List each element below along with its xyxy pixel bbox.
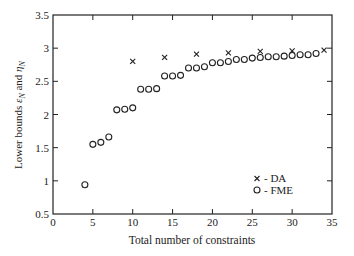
data-point (194, 52, 199, 57)
data-point (209, 60, 215, 66)
x-tick-label: 15 (167, 216, 179, 228)
x-tick-label: 20 (207, 216, 219, 228)
data-points (82, 48, 327, 188)
y-axis-label: Lower bounds εN and ηN (12, 60, 27, 169)
data-point (193, 65, 199, 71)
y-tick-label: 3.5 (35, 9, 49, 21)
data-point (106, 134, 112, 140)
x-tick-label: 10 (127, 216, 139, 228)
data-point (162, 55, 167, 60)
scatter-chart: 051015202530350.511.522.533.5 Total numb… (0, 0, 354, 256)
data-point (201, 64, 207, 70)
data-point (146, 86, 152, 92)
data-point (130, 105, 136, 111)
data-point (273, 54, 279, 60)
data-point (154, 86, 160, 92)
data-point (162, 73, 168, 79)
data-point (265, 54, 271, 60)
data-point (225, 58, 231, 64)
data-point (122, 106, 128, 112)
legend: - DA - FME (254, 172, 293, 196)
data-point (98, 139, 104, 145)
x-axis-label: Total number of constraints (129, 234, 256, 246)
legend-label-da: - DA (264, 172, 286, 184)
data-point (170, 73, 176, 79)
data-point (258, 49, 263, 54)
y-tick-label: 0.5 (35, 208, 49, 220)
data-point (305, 52, 311, 58)
data-point (289, 52, 295, 58)
data-point (186, 65, 192, 71)
y-tick-label: 2.5 (35, 75, 49, 87)
legend-label-fme: - FME (264, 184, 293, 196)
data-point (130, 59, 135, 64)
legend-marker-da-icon (255, 176, 260, 181)
x-tick-label: 30 (287, 216, 299, 228)
data-point (281, 53, 287, 59)
y-tick-label: 1.5 (35, 142, 49, 154)
data-point (297, 52, 303, 58)
x-tick-label: 25 (247, 216, 259, 228)
x-tick-label: 5 (90, 216, 96, 228)
data-point (217, 60, 223, 66)
data-point (322, 48, 327, 53)
data-point (178, 72, 184, 78)
series-fme (82, 50, 319, 187)
y-tick-label: 2 (44, 109, 50, 121)
data-point (249, 55, 255, 61)
y-tick-label: 1 (44, 175, 50, 187)
data-point (138, 86, 144, 92)
legend-marker-fme-icon (254, 187, 260, 193)
data-point (233, 56, 239, 62)
data-point (226, 50, 231, 55)
data-point (90, 141, 96, 147)
y-tick-label: 3 (44, 42, 50, 54)
x-tick-label: 0 (50, 216, 56, 228)
data-point (82, 182, 88, 188)
data-point (257, 54, 263, 60)
data-point (114, 107, 120, 113)
x-tick-label: 35 (327, 216, 339, 228)
data-point (241, 56, 247, 62)
data-point (313, 50, 319, 56)
